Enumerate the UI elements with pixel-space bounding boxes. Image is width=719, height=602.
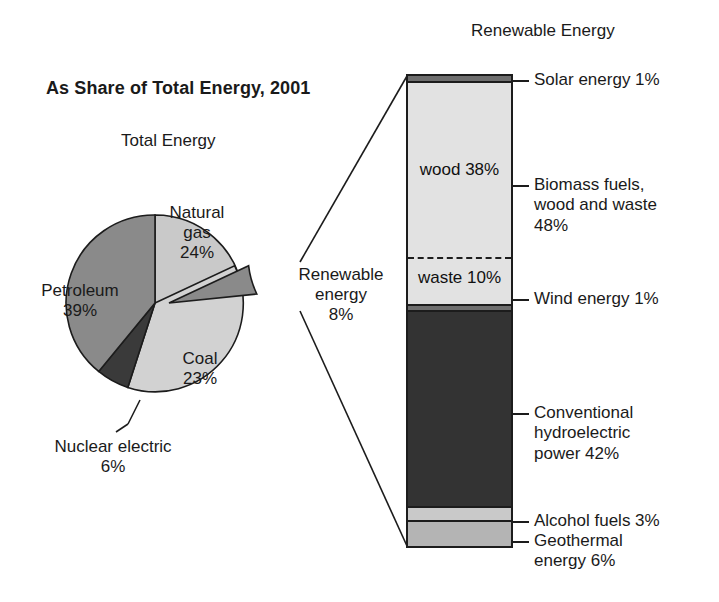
renewable-stacked-bar: wood 38% waste 10% — [406, 74, 513, 548]
bar-callout-biomass: Biomass fuels, wood and waste 48% — [534, 175, 657, 236]
tick-alcohol-fuels — [513, 521, 529, 523]
bar-segment-geothermal-energy[interactable] — [408, 522, 511, 548]
bar-segment-solar-energy[interactable] — [408, 76, 511, 83]
bar-callout-alcohol-fuels: Alcohol fuels 3% — [534, 511, 660, 531]
bar-callout-solar-energy: Solar energy 1% — [534, 70, 660, 90]
bar-segment-wood[interactable] — [408, 83, 511, 259]
pie-label-natural-gas: Natural gas 24% — [154, 203, 240, 263]
bar-segment-waste[interactable] — [408, 259, 511, 306]
pie-label-renewable-energy: Renewable energy 8% — [289, 265, 393, 325]
tick-biomass — [513, 185, 529, 187]
pie-label-petroleum: Petroleum 39% — [28, 281, 132, 321]
pie-label-nuclear-electric: Nuclear electric 6% — [20, 437, 206, 477]
tick-hydroelectric — [513, 413, 529, 415]
tick-solar-energy — [513, 80, 529, 82]
bar-callout-wind-energy: Wind energy 1% — [534, 289, 659, 309]
bar-callout-hydroelectric: Conventional hydroelectric power 42% — [534, 403, 633, 464]
tick-geothermal — [513, 541, 529, 543]
bar-callout-geothermal: Geothermal energy 6% — [534, 531, 623, 572]
bar-segment-alcohol-fuels[interactable] — [408, 508, 511, 522]
pie-label-coal: Coal 23% — [168, 349, 232, 389]
bar-segment-hydroelectric[interactable] — [408, 312, 511, 508]
tick-wind-energy — [513, 299, 529, 301]
figure-root: As Share of Total Energy, 2001 Total Ene… — [0, 0, 719, 602]
